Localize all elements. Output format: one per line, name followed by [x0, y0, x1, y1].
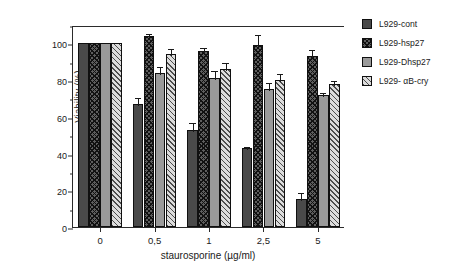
bar-0-2: [100, 43, 111, 227]
x-tick-mark: [209, 227, 210, 232]
error-bar-cap: [255, 35, 261, 36]
legend-item-1[interactable]: L929-hsp27: [362, 33, 458, 52]
bar-3-2: [264, 89, 275, 227]
error-bar-cap: [211, 71, 217, 72]
error-bar: [258, 35, 259, 47]
legend-label: L929- αB-cry: [379, 76, 428, 86]
y-tick-label: 40: [57, 151, 73, 161]
error-bar: [215, 71, 216, 80]
error-bar: [160, 67, 161, 74]
x-tick-mark: [263, 227, 264, 232]
x-axis-title: staurosporine (µg/ml): [72, 250, 344, 261]
chart-figure: Viability (%) 020406080100 00,512,55 sta…: [0, 0, 458, 279]
y-tick-minor: [70, 63, 73, 64]
bar-3-3: [275, 80, 286, 227]
error-bar: [193, 123, 194, 131]
bar-2-2: [209, 78, 220, 227]
y-tick-minor: [70, 27, 73, 28]
plot-area: Viability (%) 020406080100 00,512,55: [72, 26, 344, 228]
error-bar-cap: [168, 49, 174, 50]
bar-2-3: [220, 69, 231, 227]
error-bar: [171, 49, 172, 56]
error-bar: [226, 63, 227, 71]
x-tick-label: 5: [315, 235, 320, 246]
bar-0-1: [89, 43, 100, 227]
error-bar-cap: [244, 147, 250, 148]
bar-1-2: [155, 73, 166, 227]
error-bar-cap: [135, 98, 141, 99]
bar-0-3: [111, 43, 122, 227]
error-bar-cap: [222, 63, 228, 64]
legend-label: L929-Dhsp27: [379, 57, 431, 67]
error-bar-cap: [189, 123, 195, 124]
bar-4-2: [318, 95, 329, 227]
error-bar: [269, 83, 270, 91]
legend-swatch-icon: [362, 19, 372, 29]
x-tick-label: 0: [98, 235, 103, 246]
x-tick-label: 2,5: [257, 235, 270, 246]
y-tick-minor: [70, 100, 73, 101]
chart-legend: L929-contL929-hsp27L929-Dhsp27L929- αB-c…: [362, 14, 458, 90]
y-tick-label: 80: [57, 77, 73, 87]
bar-3-1: [253, 45, 264, 227]
bar-4-3: [329, 84, 340, 227]
x-tick-mark: [318, 227, 319, 232]
error-bar-cap: [331, 81, 337, 82]
error-bar: [312, 50, 313, 58]
legend-swatch-icon: [362, 76, 372, 86]
legend-item-2[interactable]: L929-Dhsp27: [362, 52, 458, 71]
x-tick-label: 0,5: [148, 235, 161, 246]
y-tick-label: 100: [52, 40, 73, 50]
bar-1-3: [166, 54, 177, 227]
y-tick-label: 20: [57, 187, 73, 197]
error-bar-cap: [309, 50, 315, 51]
x-tick-mark: [155, 227, 156, 232]
legend-swatch-icon: [362, 38, 372, 48]
legend-item-3[interactable]: L929- αB-cry: [362, 71, 458, 90]
y-tick-minor: [70, 137, 73, 138]
error-bar-cap: [157, 67, 163, 68]
y-tick-minor: [70, 173, 73, 174]
bar-4-1: [307, 56, 318, 227]
bar-0-0: [78, 43, 89, 227]
error-bar: [301, 193, 302, 201]
bar-3-0: [242, 148, 253, 227]
y-tick-minor: [70, 210, 73, 211]
error-bar-cap: [298, 193, 304, 194]
legend-label: L929-hsp27: [379, 38, 424, 48]
bar-2-1: [198, 51, 209, 227]
x-tick-label: 1: [206, 235, 211, 246]
error-bar-cap: [277, 74, 283, 75]
error-bar-cap: [320, 93, 326, 94]
legend-swatch-icon: [362, 57, 372, 67]
legend-item-0[interactable]: L929-cont: [362, 14, 458, 33]
error-bar-cap: [146, 34, 152, 35]
x-tick-mark: [100, 227, 101, 232]
bar-1-1: [144, 36, 155, 227]
error-bar: [138, 98, 139, 106]
legend-label: L929-cont: [379, 19, 417, 29]
error-bar-cap: [266, 83, 272, 84]
bar-2-0: [187, 130, 198, 227]
bar-1-0: [133, 104, 144, 227]
bar-4-0: [296, 199, 307, 227]
error-bar: [280, 74, 281, 82]
y-tick-label: 60: [57, 114, 73, 124]
error-bar-cap: [200, 48, 206, 49]
y-tick-label: 0: [62, 224, 73, 234]
